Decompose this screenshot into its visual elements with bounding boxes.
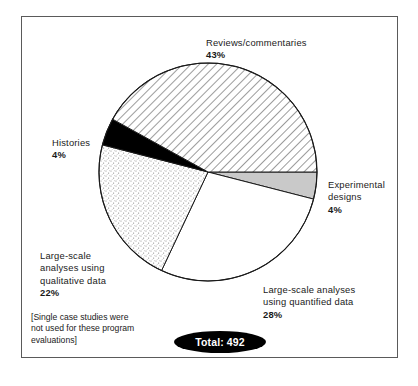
pie-label-quantified-percent: 28%	[263, 309, 355, 322]
total-badge-text: Total: 492	[195, 336, 244, 348]
pie-label-reviews-commentaries: Reviews/commentaries 43%	[206, 24, 307, 74]
pie-label-histories-title: Histories	[52, 137, 90, 148]
chart-footnote: [Single case studies were not used for t…	[31, 312, 181, 346]
pie-chart-figure: Reviews/commentaries 43% Histories 4% Ex…	[0, 0, 418, 386]
pie-label-experimental-title: Experimental designs	[328, 179, 385, 203]
pie-label-large-scale-qualitative: Large-scale analyses using qualitative d…	[40, 237, 106, 313]
pie-label-histories-percent: 4%	[52, 149, 90, 162]
pie-label-histories: Histories 4%	[52, 124, 90, 174]
total-badge: Total: 492	[174, 331, 266, 353]
pie-label-experimental-percent: 4%	[328, 204, 385, 217]
pie-label-reviews-percent: 43%	[206, 49, 307, 62]
chart-area: Reviews/commentaries 43% Histories 4% Ex…	[0, 0, 418, 386]
pie-label-quantified-title: Large-scale analyses using quantified da…	[263, 284, 355, 308]
pie-label-qualitative-percent: 22%	[40, 287, 106, 300]
pie-label-qualitative-title: Large-scale analyses using qualitative d…	[40, 250, 106, 286]
pie-label-experimental-designs: Experimental designs 4%	[328, 166, 385, 229]
pie-label-large-scale-quantified: Large-scale analyses using quantified da…	[263, 271, 355, 334]
pie-label-reviews-title: Reviews/commentaries	[206, 37, 307, 48]
